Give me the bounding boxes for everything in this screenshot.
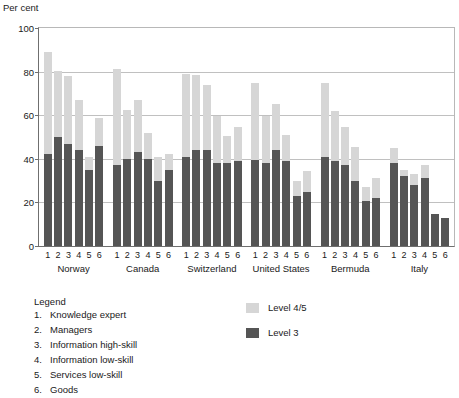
x-tick-number: 4	[215, 250, 220, 260]
x-tick-number: 2	[263, 250, 268, 260]
chart-title	[0, 0, 459, 2]
x-axis-labels: 123456Norway123456Canada123456Switzerlan…	[39, 28, 454, 246]
x-tick-number: 6	[443, 250, 448, 260]
x-tick-number: 5	[432, 250, 437, 260]
x-tick-number: 1	[45, 250, 50, 260]
y-tick-label: 80	[23, 66, 34, 77]
series-legend-label: Level 3	[268, 327, 299, 338]
legend-item: 3.Information high-skill	[34, 339, 454, 354]
legend-item-number: 2.	[34, 324, 50, 335]
x-axis-group-label: Switzerland	[187, 263, 236, 274]
legend-item: 2.Managers	[34, 324, 454, 339]
x-tick-number: 5	[156, 250, 161, 260]
x-tick-number: 3	[204, 250, 209, 260]
series-legend: Level 4/5Level 3	[246, 302, 307, 352]
x-tick-number: 6	[304, 250, 309, 260]
x-tick-number: 3	[273, 250, 278, 260]
x-tick-number: 5	[225, 250, 230, 260]
x-tick-number: 5	[363, 250, 368, 260]
x-tick-number: 2	[125, 250, 130, 260]
x-tick-number: 4	[76, 250, 81, 260]
x-tick-number: 3	[135, 250, 140, 260]
x-tick-number: 6	[97, 250, 102, 260]
x-tick-number: 6	[373, 250, 378, 260]
x-axis-group-label: Canada	[126, 263, 159, 274]
y-tick-mark	[35, 246, 39, 247]
x-tick-number: 3	[66, 250, 71, 260]
series-legend-label: Level 4/5	[268, 302, 307, 313]
y-tick-label: 20	[23, 197, 34, 208]
x-tick-number: 1	[322, 250, 327, 260]
legend-item-number: 6.	[34, 384, 50, 395]
legend-item-number: 5.	[34, 369, 50, 380]
y-tick-label: 100	[18, 23, 34, 34]
plot-area: 020406080100 123456Norway123456Canada123…	[38, 27, 455, 247]
x-tick-number: 1	[184, 250, 189, 260]
y-tick-label: 40	[23, 153, 34, 164]
legend: Legend 1.Knowledge expert2.Managers3.Inf…	[34, 296, 454, 398]
x-tick-number: 1	[253, 250, 258, 260]
legend-item: 4.Information low-skill	[34, 354, 454, 369]
x-axis-group-label: Italy	[411, 263, 428, 274]
legend-item-list: 1.Knowledge expert2.Managers3.Informatio…	[34, 309, 454, 398]
legend-heading: Legend	[34, 296, 454, 307]
x-tick-number: 1	[114, 250, 119, 260]
legend-item-number: 3.	[34, 339, 50, 350]
x-tick-number: 4	[353, 250, 358, 260]
x-tick-number: 3	[412, 250, 417, 260]
x-tick-number: 4	[284, 250, 289, 260]
x-axis-group-label: Bermuda	[331, 263, 370, 274]
x-tick-number: 5	[87, 250, 92, 260]
legend-item: 1.Knowledge expert	[34, 309, 454, 324]
x-tick-number: 5	[294, 250, 299, 260]
x-tick-number: 6	[235, 250, 240, 260]
x-tick-number: 1	[391, 250, 396, 260]
legend-item-label: Information low-skill	[50, 354, 133, 365]
x-axis-group-label: Norway	[57, 263, 89, 274]
legend-item: 5.Services low-skill	[34, 369, 454, 384]
legend-item-label: Managers	[50, 324, 92, 335]
chart-figure: Per cent 020406080100 123456Norway123456…	[0, 0, 459, 398]
legend-item-number: 1.	[34, 309, 50, 320]
x-tick-number: 3	[343, 250, 348, 260]
legend-item-label: Information high-skill	[50, 339, 137, 350]
legend-item-label: Services low-skill	[50, 369, 122, 380]
legend-item-label: Knowledge expert	[50, 309, 126, 320]
y-tick-label: 0	[29, 241, 34, 252]
x-tick-number: 6	[166, 250, 171, 260]
series-color-swatch	[246, 328, 259, 338]
series-color-swatch	[246, 303, 259, 313]
x-tick-number: 2	[332, 250, 337, 260]
y-tick-label: 60	[23, 110, 34, 121]
legend-item-number: 4.	[34, 354, 50, 365]
y-axis-title: Per cent	[3, 2, 38, 13]
x-axis-group-label: United States	[253, 263, 310, 274]
series-legend-item[interactable]: Level 3	[246, 327, 307, 338]
x-tick-number: 2	[56, 250, 61, 260]
x-tick-number: 4	[422, 250, 427, 260]
x-tick-number: 4	[145, 250, 150, 260]
legend-item-label: Goods	[50, 384, 78, 395]
x-tick-number: 2	[401, 250, 406, 260]
series-legend-item[interactable]: Level 4/5	[246, 302, 307, 313]
x-tick-number: 2	[194, 250, 199, 260]
legend-item: 6.Goods	[34, 384, 454, 398]
